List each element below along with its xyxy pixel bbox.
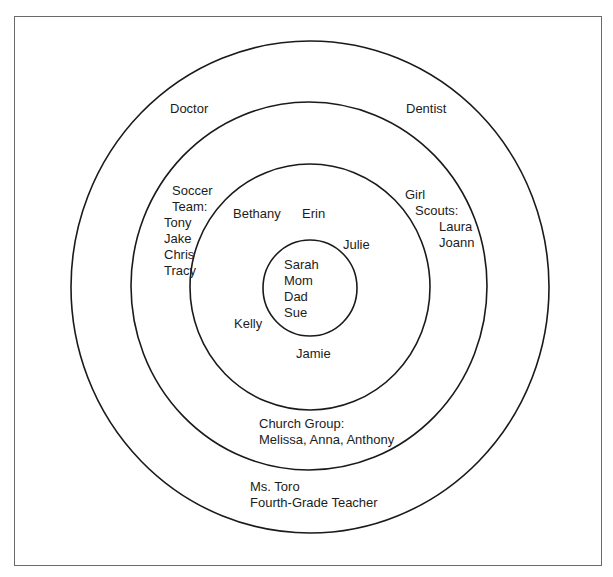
label-joann: Joann	[439, 235, 474, 251]
label-dentist: Dentist	[406, 101, 446, 117]
soccer-line-1: Soccer	[172, 183, 212, 199]
soccer-line-2: Team:	[172, 199, 212, 215]
center-line-2: Mom	[284, 273, 319, 289]
teacher-line-2: Fourth-Grade Teacher	[250, 495, 378, 511]
label-scouts: Scouts:	[415, 203, 458, 219]
church-line-2: Melissa, Anna, Anthony	[259, 432, 394, 448]
center-line-3: Dad	[284, 289, 319, 305]
label-laura: Laura	[439, 219, 472, 235]
label-soccer-team: Soccer Team: Tony Jake Chris Tracy	[164, 183, 212, 279]
label-girl: Girl	[405, 187, 425, 203]
label-doctor: Doctor	[170, 101, 208, 117]
center-line-4: Sue	[284, 305, 319, 321]
label-center-family: Sarah Mom Dad Sue	[284, 257, 319, 321]
label-erin: Erin	[302, 206, 325, 222]
label-julie: Julie	[343, 237, 370, 253]
soccer-line-3: Tony	[164, 215, 212, 231]
label-church-group: Church Group: Melissa, Anna, Anthony	[259, 416, 394, 448]
soccer-line-6: Tracy	[164, 263, 212, 279]
label-jamie: Jamie	[296, 346, 331, 362]
label-kelly: Kelly	[234, 316, 262, 332]
soccer-line-4: Jake	[164, 231, 212, 247]
center-line-1: Sarah	[284, 257, 319, 273]
label-bethany: Bethany	[233, 206, 281, 222]
label-teacher: Ms. Toro Fourth-Grade Teacher	[250, 479, 378, 511]
soccer-line-5: Chris	[164, 247, 212, 263]
teacher-line-1: Ms. Toro	[250, 479, 378, 495]
church-line-1: Church Group:	[259, 416, 394, 432]
